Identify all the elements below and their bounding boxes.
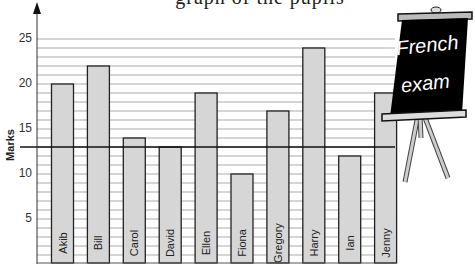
bar-label: Ellen xyxy=(200,231,212,255)
y-tick-label: 25 xyxy=(16,31,32,45)
bar-label: Carol xyxy=(128,230,140,256)
y-axis-label: Marks xyxy=(4,129,16,161)
bar-gregory: Gregory xyxy=(267,111,289,263)
y-tick-label: 20 xyxy=(16,76,32,90)
bar-fiona: Fiona xyxy=(231,174,253,263)
y-tick-label: 5 xyxy=(16,211,32,225)
bar-label: Akib xyxy=(57,232,69,253)
bar-akib: Akib xyxy=(52,84,74,263)
bar-carol: Carol xyxy=(123,138,145,263)
bar-bill: Bill xyxy=(87,66,109,263)
bar-label: David xyxy=(164,229,176,257)
y-tick-label: 15 xyxy=(16,121,32,135)
y-tick-label: 10 xyxy=(16,166,32,180)
bar-david: David xyxy=(159,147,181,263)
bar-chart: AkibBillCarolDavidEllenFionaGregoryHarry… xyxy=(0,0,475,265)
bar-label: Fiona xyxy=(236,228,248,256)
bar-label: Bill xyxy=(92,236,104,251)
bar-label: Harry xyxy=(308,229,320,256)
bar-label: Jenny xyxy=(380,228,392,258)
bar-label: Ian xyxy=(344,235,356,250)
bar-ellen: Ellen xyxy=(195,93,217,263)
bar-ian: Ian xyxy=(339,156,361,263)
bar-harry: Harry xyxy=(303,48,325,263)
y-axis xyxy=(33,2,41,264)
bars: AkibBillCarolDavidEllenFionaGregoryHarry… xyxy=(52,48,397,263)
bar-label: Gregory xyxy=(272,223,284,263)
